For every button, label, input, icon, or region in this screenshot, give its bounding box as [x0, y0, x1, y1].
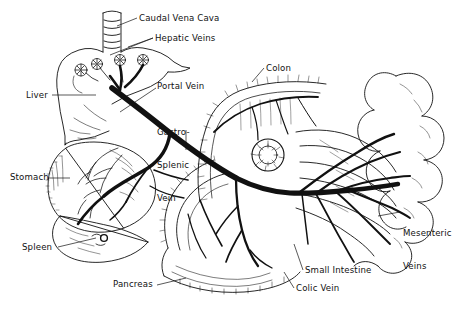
anatomy-illustration	[0, 0, 460, 313]
label-hepatic-veins: Hepatic Veins	[155, 33, 215, 44]
label-caudal-vena-cava: Caudal Vena Cava	[139, 13, 220, 24]
label-gastro-splenic-line2: Splenic	[157, 160, 190, 171]
label-stomach: Stomach	[10, 172, 49, 183]
label-gastro-splenic-vein: Gastro- Splenic Vein	[157, 105, 190, 226]
label-liver: Liver	[26, 90, 48, 101]
label-colon: Colon	[266, 63, 291, 74]
label-colic-vein: Colic Vein	[296, 283, 339, 294]
diagram-canvas: Caudal Vena Cava Hepatic Veins Liver Por…	[0, 0, 460, 313]
label-small-intestine: Small Intestine	[305, 265, 371, 276]
label-portal-vein: Portal Vein	[157, 81, 204, 92]
label-pancreas: Pancreas	[113, 279, 153, 290]
label-gastro-splenic-line3: Vein	[157, 193, 190, 204]
label-gastro-splenic-line1: Gastro-	[157, 127, 190, 138]
label-spleen: Spleen	[22, 242, 52, 253]
label-mesenteric-line2: Veins	[403, 261, 452, 272]
label-mesenteric-veins: Mesenteric Veins	[403, 206, 452, 294]
label-mesenteric-line1: Mesenteric	[403, 228, 452, 239]
